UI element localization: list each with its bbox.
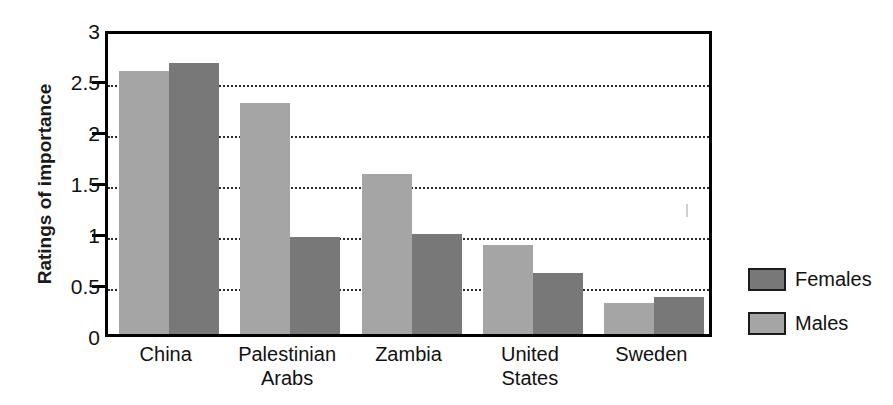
legend-label: Females [795, 269, 872, 289]
x-label-united-states: UnitedStates [469, 343, 590, 390]
bar-palestinian-arabs-males [240, 103, 290, 334]
bar-sweden-males [604, 303, 654, 334]
y-tick-label: 0.5 [42, 276, 100, 297]
y-tick-label: 2.5 [42, 72, 100, 93]
scan-artifact [686, 204, 688, 217]
bar-group [240, 34, 340, 334]
y-tick-label: 1 [42, 225, 100, 246]
x-label-china: China [105, 343, 226, 367]
bar-group [604, 34, 704, 334]
legend-item-males[interactable]: Males [748, 306, 888, 340]
x-label-zambia: Zambia [348, 343, 469, 367]
legend-item-females[interactable]: Females [748, 262, 888, 296]
x-label-line: Zambia [348, 343, 469, 367]
plot-inner [108, 34, 709, 334]
y-tick-label: 0 [42, 327, 100, 348]
bar-group [483, 34, 583, 334]
bar-sweden-females [654, 297, 704, 334]
bar-china-females [169, 63, 219, 334]
bar-group [119, 34, 219, 334]
legend-label: Males [795, 313, 848, 333]
x-label-sweden: Sweden [591, 343, 712, 367]
y-axis: 00.511.522.53 [0, 31, 100, 337]
bar-zambia-males [362, 174, 412, 334]
bar-group [362, 34, 462, 334]
x-label-line: Palestinian [226, 343, 347, 367]
bar-united-states-females [533, 273, 583, 334]
bar-china-males [119, 71, 169, 334]
x-label-line: China [105, 343, 226, 367]
plot-area [105, 31, 712, 337]
y-tick-label: 2 [42, 123, 100, 144]
bar-zambia-females [412, 234, 462, 334]
x-label-line: Sweden [591, 343, 712, 367]
legend-swatch-males [748, 312, 786, 335]
bar-chart-figure: Ratings of importance 00.511.522.53 Chin… [0, 0, 893, 405]
bar-united-states-males [483, 245, 533, 334]
legend: FemalesMales [748, 262, 888, 350]
x-axis-labels: ChinaPalestinianArabsZambiaUnitedStatesS… [105, 343, 712, 403]
x-label-line: United [469, 343, 590, 367]
bar-palestinian-arabs-females [290, 237, 340, 334]
x-label-line: Arabs [226, 367, 347, 391]
y-tick-label: 3 [42, 21, 100, 42]
x-label-palestinian-arabs: PalestinianArabs [226, 343, 347, 390]
y-tick-label: 1.5 [42, 174, 100, 195]
x-label-line: States [469, 367, 590, 391]
legend-swatch-females [748, 268, 786, 291]
